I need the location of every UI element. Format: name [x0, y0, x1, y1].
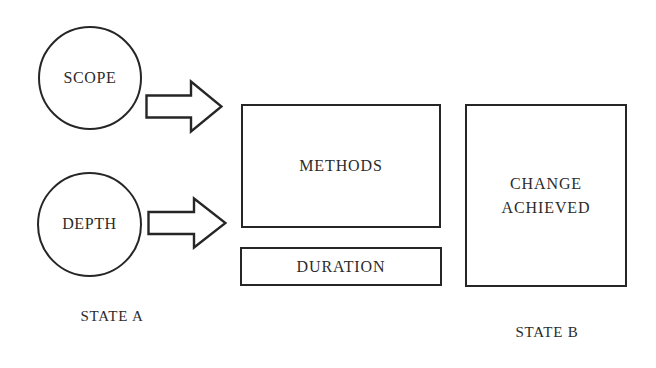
diagram-canvas: SCOPE DEPTH METHODS DURATION CHANGE ACHI… — [0, 0, 656, 368]
arrow-right-icon-scope — [145, 79, 223, 134]
node-duration-label: DURATION — [297, 255, 386, 278]
node-methods-box: METHODS — [241, 104, 441, 228]
node-change-achieved-box: CHANGE ACHIEVED — [465, 104, 627, 287]
node-duration-box: DURATION — [240, 247, 442, 286]
arrow-right-icon-depth — [147, 196, 227, 250]
node-depth-circle: DEPTH — [37, 172, 142, 277]
node-depth-label: DEPTH — [62, 215, 117, 233]
node-change-achieved-label: CHANGE ACHIEVED — [502, 172, 591, 218]
state-b-label: STATE B — [482, 324, 612, 341]
node-scope-circle: SCOPE — [38, 26, 142, 130]
state-a-label: STATE A — [47, 308, 177, 325]
node-scope-label: SCOPE — [64, 69, 117, 87]
node-methods-label: METHODS — [299, 154, 383, 177]
